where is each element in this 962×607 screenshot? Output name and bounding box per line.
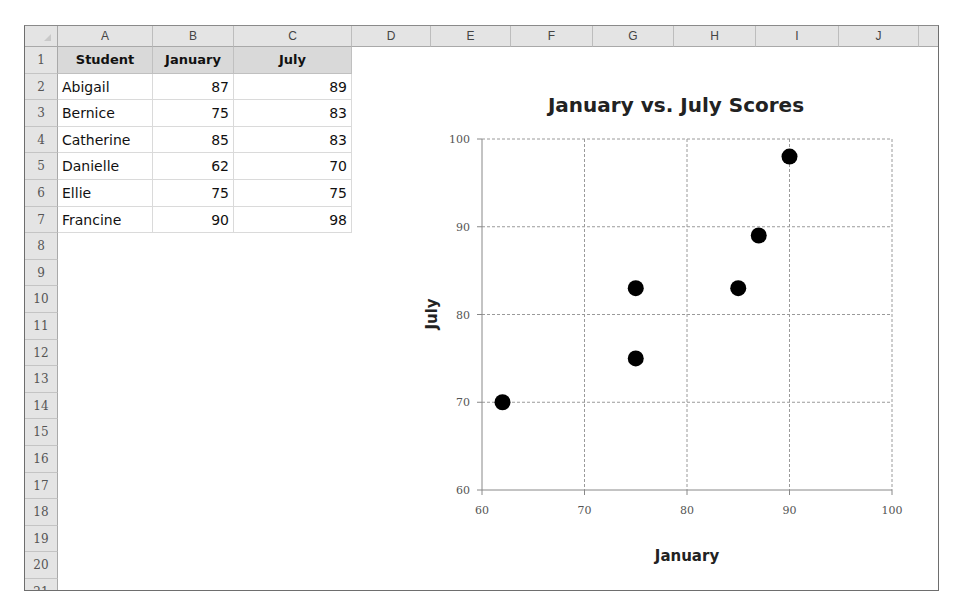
scatter-chart[interactable]: 6070809010060708090100 January vs. July … [0, 0, 962, 607]
data-point-danielle[interactable] [495, 394, 511, 410]
y-tick-label: 100 [449, 133, 470, 146]
x-tick-label: 70 [578, 504, 592, 517]
x-tick-label: 100 [882, 504, 903, 517]
data-point-bernice[interactable] [628, 280, 644, 296]
data-point-ellie[interactable] [628, 350, 644, 366]
x-tick-label: 60 [475, 504, 489, 517]
y-tick-label: 80 [456, 309, 470, 322]
data-point-abigail[interactable] [751, 228, 767, 244]
y-tick-label: 90 [456, 221, 470, 234]
y-tick-label: 70 [456, 396, 470, 409]
x-tick-label: 90 [783, 504, 797, 517]
y-tick-label: 60 [456, 484, 470, 497]
chart-title: January vs. July Scores [546, 93, 804, 117]
x-axis-title: January [654, 547, 720, 565]
data-point-francine[interactable] [782, 149, 798, 165]
y-axis-title: July [423, 298, 441, 330]
x-tick-label: 80 [680, 504, 694, 517]
data-point-catherine[interactable] [730, 280, 746, 296]
